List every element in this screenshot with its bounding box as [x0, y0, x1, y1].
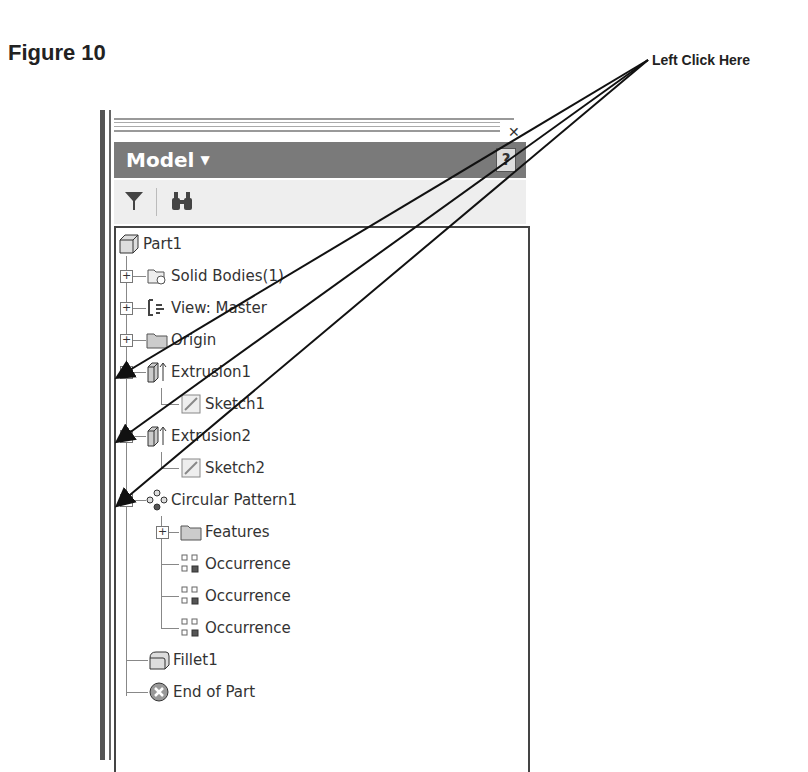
extrusion-icon [146, 425, 168, 447]
tree-item-label: Occurrence [205, 555, 291, 573]
tree-item-solid-bodies[interactable]: Solid Bodies(1) [146, 262, 284, 290]
tree-item-label: Sketch1 [205, 395, 265, 413]
view-rep-icon [146, 297, 168, 319]
tree-item-fillet1[interactable]: Fillet1 [148, 646, 218, 674]
tree-item-sketch1[interactable]: Sketch1 [180, 390, 265, 418]
collapse-button[interactable]: − [120, 494, 133, 507]
circular-pattern-icon [146, 489, 168, 511]
browser-toolbar [114, 180, 526, 224]
model-tree: Part1 + Solid Bodies(1) + View: Master +… [114, 226, 530, 772]
fillet-icon [148, 649, 170, 671]
panel-grip[interactable] [114, 118, 514, 134]
tree-item-part1[interactable]: Part1 [118, 230, 182, 258]
occurrence-icon [180, 617, 202, 639]
tree-item-circular-pattern1[interactable]: Circular Pattern1 [146, 486, 297, 514]
tree-item-occurrence[interactable]: Occurrence [180, 582, 291, 610]
tree-item-label: Sketch2 [205, 459, 265, 477]
tree-item-extrusion1[interactable]: Extrusion1 [146, 358, 251, 386]
panel-border [100, 110, 105, 760]
model-dropdown[interactable]: Model▼ [126, 148, 210, 172]
tree-item-occurrence[interactable]: Occurrence [180, 614, 291, 642]
expand-button[interactable]: + [120, 270, 133, 283]
expand-button[interactable]: + [120, 334, 133, 347]
tree-item-label: Extrusion2 [171, 427, 251, 445]
tree-item-label: Features [205, 523, 270, 541]
tree-item-label: Occurrence [205, 619, 291, 637]
tree-item-origin[interactable]: Origin [146, 326, 216, 354]
extrusion-icon [146, 361, 168, 383]
expand-button[interactable]: + [120, 302, 133, 315]
tree-item-end-of-part[interactable]: End of Part [148, 678, 255, 706]
chevron-down-icon: ▼ [200, 153, 209, 167]
model-title: Model [126, 148, 194, 172]
tree-item-occurrence[interactable]: Occurrence [180, 550, 291, 578]
model-browser-panel: ✕ Model▼ ? Part1 + [100, 110, 528, 770]
toolbar-divider [156, 188, 157, 216]
solid-bodies-icon [146, 265, 168, 287]
occurrence-icon [180, 585, 202, 607]
tree-item-label: View: Master [171, 299, 267, 317]
tree-item-features[interactable]: Features [180, 518, 270, 546]
callout-label: Left Click Here [652, 52, 750, 68]
folder-icon [146, 329, 168, 351]
expand-button[interactable]: + [156, 526, 169, 539]
tree-item-sketch2[interactable]: Sketch2 [180, 454, 265, 482]
tree-item-label: Fillet1 [173, 651, 218, 669]
tree-item-label: Occurrence [205, 587, 291, 605]
collapse-button[interactable]: − [120, 430, 133, 443]
tree-item-label: Solid Bodies(1) [171, 267, 284, 285]
filter-icon[interactable] [124, 190, 144, 212]
tree-item-label: Circular Pattern1 [171, 491, 297, 509]
part-cube-icon [118, 233, 140, 255]
collapse-button[interactable]: − [120, 366, 133, 379]
panel-border-inner [109, 110, 111, 760]
panel-header: Model▼ ? [114, 142, 526, 178]
tree-item-label: Extrusion1 [171, 363, 251, 381]
occurrence-icon [180, 553, 202, 575]
tree-item-label: Part1 [143, 235, 182, 253]
figure-title: Figure 10 [8, 40, 106, 66]
help-icon[interactable]: ? [496, 148, 516, 172]
tree-item-label: End of Part [173, 683, 255, 701]
tree-item-extrusion2[interactable]: Extrusion2 [146, 422, 251, 450]
sketch-icon [180, 457, 202, 479]
folder-icon [180, 521, 202, 543]
tree-item-label: Origin [171, 331, 216, 349]
close-icon[interactable]: ✕ [508, 124, 520, 140]
end-of-part-icon [148, 681, 170, 703]
sketch-icon [180, 393, 202, 415]
tree-item-view-master[interactable]: View: Master [146, 294, 267, 322]
binoculars-icon[interactable] [170, 190, 194, 212]
